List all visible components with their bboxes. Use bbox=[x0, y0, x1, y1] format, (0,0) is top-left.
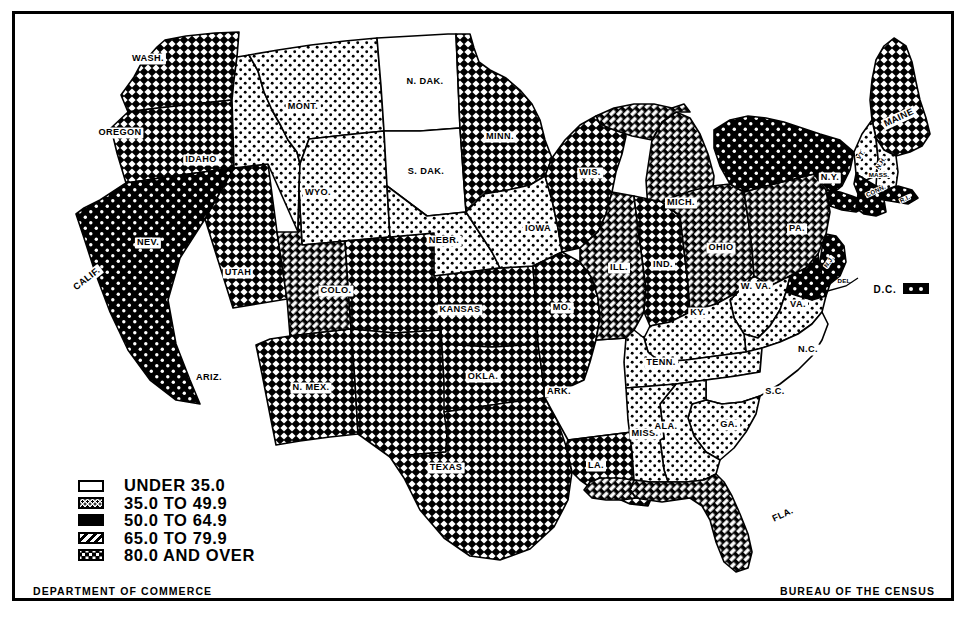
legend-item-under35: UNDER 35.0 bbox=[78, 477, 338, 494]
legend-label-35-49: 35.0 TO 49.9 bbox=[124, 495, 227, 512]
state-label-MN: MINN. bbox=[484, 131, 516, 142]
state-label-OH: OHIO bbox=[706, 242, 735, 253]
state-label-WA: WASH. bbox=[130, 53, 166, 64]
state-CA bbox=[76, 168, 234, 404]
legend-label-over80: 80.0 AND OVER bbox=[124, 547, 255, 564]
state-label-IA: IOWA bbox=[523, 223, 553, 234]
state-WA bbox=[121, 32, 239, 112]
state-label-NM: N. MEX. bbox=[290, 382, 331, 393]
state-label-WV: W. VA. bbox=[739, 281, 773, 292]
state-label-OK: OKLA. bbox=[466, 371, 501, 382]
state-label-ND: N. DAK. bbox=[405, 76, 446, 87]
state-label-OR: OREGON bbox=[96, 127, 143, 138]
state-label-GA: GA. bbox=[718, 419, 740, 430]
legend-swatch-dots bbox=[78, 497, 104, 509]
legend-swatch-solid bbox=[78, 549, 104, 561]
legend-item-50-64: 50.0 TO 64.9 bbox=[78, 512, 338, 529]
state-label-NY: N.Y. bbox=[819, 172, 841, 183]
state-label-IL: ILL. bbox=[608, 262, 630, 273]
state-label-AZ: ARIZ. bbox=[194, 372, 224, 383]
legend-item-65-79: 65.0 TO 79.9 bbox=[78, 529, 338, 546]
legend-label-under35: UNDER 35.0 bbox=[124, 477, 225, 494]
state-label-LA: LA. bbox=[586, 460, 606, 471]
state-label-NV: NEV. bbox=[135, 237, 161, 248]
state-NM bbox=[351, 329, 447, 457]
legend-swatch-diagonal bbox=[78, 532, 104, 544]
credit-department-of-commerce: DEPARTMENT OF COMMERCE bbox=[33, 585, 212, 597]
legend-label-65-79: 65.0 TO 79.9 bbox=[124, 530, 227, 547]
state-FL-panhandle bbox=[584, 478, 636, 500]
state-label-DE: DEL. bbox=[837, 278, 854, 284]
legend-swatch-blank bbox=[78, 480, 104, 492]
state-label-CO: COLO. bbox=[318, 285, 353, 296]
state-label-KS: KANSAS bbox=[437, 304, 482, 315]
state-label-AL: ALA. bbox=[652, 421, 679, 432]
state-label-WI: WIS. bbox=[577, 167, 603, 178]
legend-item-35-49: 35.0 TO 49.9 bbox=[78, 494, 338, 511]
map-legend: UNDER 35.0 35.0 TO 49.9 50.0 TO 64.9 65.… bbox=[78, 477, 338, 564]
state-label-TX: TEXAS bbox=[428, 462, 465, 473]
state-label-MT: MONT. bbox=[286, 101, 321, 112]
legend-label-50-64: 50.0 TO 64.9 bbox=[124, 512, 227, 529]
state-label-MI: MICH. bbox=[665, 197, 697, 208]
state-label-MA: MASS. bbox=[868, 172, 891, 178]
legend-swatch-crosshatch bbox=[78, 514, 104, 526]
legend-item-over80: 80.0 AND OVER bbox=[78, 547, 338, 564]
state-label-UT: UTAH bbox=[223, 267, 253, 278]
credit-bureau-of-the-census: BUREAU OF THE CENSUS bbox=[780, 585, 935, 597]
state-label-AR: ARK. bbox=[545, 386, 573, 397]
state-label-KY: KY. bbox=[688, 307, 708, 318]
state-label-SD: S. DAK. bbox=[406, 166, 447, 177]
map-page: WASH. OREGON CALIF. NEV. IDAHO MONT. WYO… bbox=[0, 0, 968, 617]
state-label-ID: IDAHO bbox=[183, 154, 219, 165]
state-CO bbox=[345, 233, 441, 333]
state-label-SC: S.C. bbox=[763, 386, 786, 397]
state-label-NE: NEBR. bbox=[427, 235, 462, 246]
state-label-WY: WYO. bbox=[303, 187, 333, 198]
state-label-MO: MO. bbox=[551, 302, 574, 313]
state-label-IN: IND. bbox=[651, 259, 675, 270]
state-label-PA: PA. bbox=[787, 223, 807, 234]
state-label-NC: N.C. bbox=[796, 344, 820, 355]
state-FL bbox=[630, 474, 752, 572]
state-label-VA: VA. bbox=[788, 299, 808, 310]
dc-swatch bbox=[903, 283, 929, 294]
state-label-TN: TENN. bbox=[644, 357, 678, 368]
state-ME bbox=[870, 38, 930, 156]
dc-label: D.C. bbox=[873, 284, 896, 295]
